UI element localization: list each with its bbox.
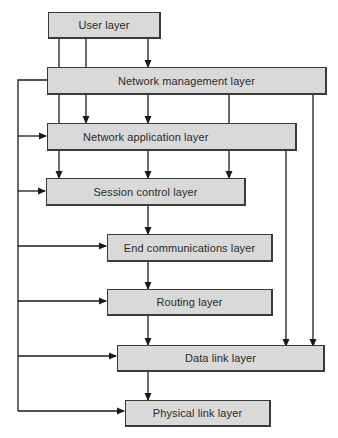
network-management-layer-box: Network management layer [47,67,327,95]
network-application-layer-box: Network application layer [47,123,297,151]
user-layer-label: User layer [78,19,129,31]
end-communications-layer-label: End communications layer [124,242,255,254]
data-link-layer-box: Data link layer [117,345,325,372]
routing-layer-label: Routing layer [156,296,222,308]
network-application-layer-label: Network application layer [83,131,208,143]
session-control-layer-label: Session control layer [93,186,197,198]
physical-link-layer-box: Physical link layer [125,400,271,427]
physical-link-layer-label: Physical link layer [153,407,242,419]
routing-layer-box: Routing layer [107,289,273,316]
end-communications-layer-box: End communications layer [107,234,273,262]
user-layer-box: User layer [48,12,161,39]
data-link-layer-label: Data link layer [185,352,256,364]
connector-lines [0,0,338,438]
network-management-layer-label: Network management layer [118,75,255,87]
session-control-layer-box: Session control layer [46,178,246,206]
